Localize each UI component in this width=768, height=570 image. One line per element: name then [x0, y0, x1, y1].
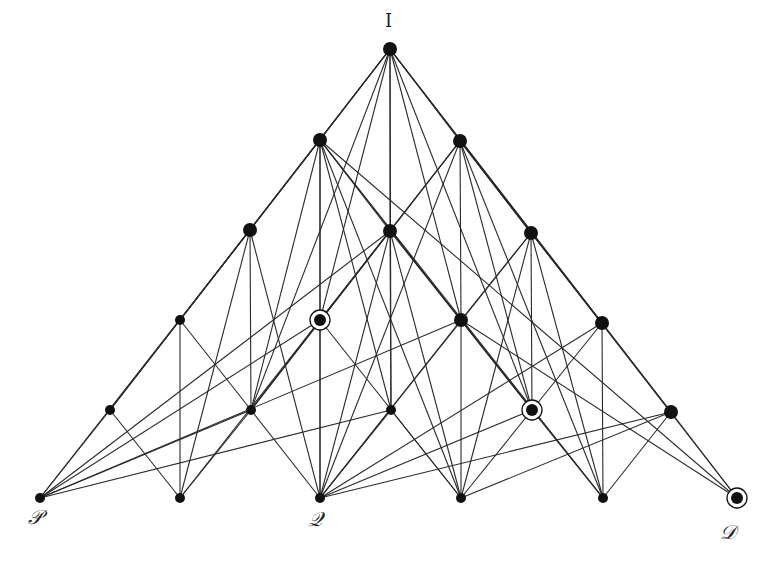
node-S	[456, 493, 466, 503]
node-N	[526, 404, 538, 416]
edge-C-L	[250, 230, 251, 410]
edge-O-T	[603, 412, 671, 498]
edges-group	[40, 49, 737, 498]
label-bottom-left: 𝒫	[28, 507, 42, 527]
edge-M-P	[40, 410, 391, 498]
edge-A-U	[320, 140, 737, 498]
edge-L-Q	[251, 410, 320, 498]
edge-L-P	[40, 410, 251, 498]
label-top: I	[385, 12, 392, 30]
node-C	[243, 223, 257, 237]
edge-B-H	[460, 141, 461, 320]
node-O	[664, 405, 678, 419]
edge-J-O	[602, 323, 671, 412]
edge-E-T	[531, 233, 603, 498]
node-H	[454, 313, 468, 327]
label-bottom-right: 𝒟	[720, 522, 736, 542]
node-P	[35, 493, 45, 503]
node-F	[175, 315, 185, 325]
node-T	[598, 493, 608, 503]
node-B	[453, 134, 467, 148]
node-U	[731, 492, 743, 504]
edge-E-J	[531, 233, 602, 323]
node-E	[524, 226, 538, 240]
node-D	[383, 224, 397, 238]
node-I	[383, 42, 397, 56]
edge-K-P	[40, 410, 110, 498]
lattice-diagram	[0, 0, 768, 570]
node-M	[386, 405, 396, 415]
edge-H-U	[461, 320, 737, 498]
edge-E-N	[531, 233, 532, 410]
edge-A-C	[250, 140, 320, 230]
node-A	[313, 133, 327, 147]
edge-N-S	[461, 410, 532, 498]
node-G	[314, 314, 326, 326]
node-L	[246, 405, 256, 415]
edge-B-N	[460, 141, 532, 410]
node-J	[595, 316, 609, 330]
edge-M-Q	[320, 410, 391, 498]
node-Q	[315, 493, 325, 503]
label-bottom-middle: 𝒬	[308, 509, 322, 529]
edge-O-S	[461, 412, 671, 498]
node-K	[105, 405, 115, 415]
edge-F-L	[180, 320, 251, 410]
node-R	[175, 493, 185, 503]
edge-F-K	[110, 320, 180, 410]
edge-O-U	[671, 412, 737, 498]
edge-J-T	[602, 323, 603, 498]
edge-J-N	[532, 323, 602, 410]
